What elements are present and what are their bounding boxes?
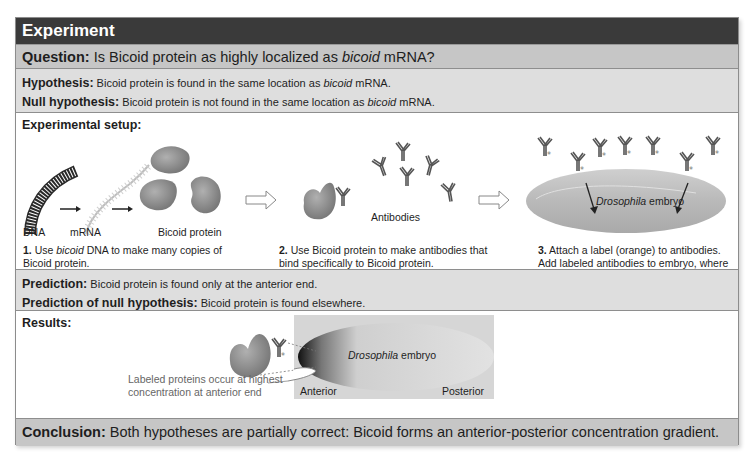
- results-annotation: Labeled proteins occur at highest concen…: [128, 373, 298, 399]
- hollow-arrow-icon: [479, 191, 509, 209]
- null-hypothesis-line: Null hypothesis: Bicoid protein is not f…: [22, 93, 738, 112]
- null-hypothesis-text-end: mRNA.: [396, 96, 435, 108]
- experimental-setup-section: Experimental setup:: [16, 113, 738, 270]
- question-band: Question: Is Bicoid protein as highly lo…: [16, 44, 738, 69]
- results-embryo-rest: embryo: [398, 349, 436, 361]
- prediction-label: Prediction:: [22, 277, 87, 291]
- posterior-label: Posterior: [442, 385, 484, 398]
- prediction-text: Bicoid protein is found only at the ante…: [87, 278, 317, 290]
- header-title: Experiment: [22, 21, 115, 40]
- embryo-label-rest: embryo: [646, 195, 684, 207]
- results-section: Results: Labeled proteins occur at highe…: [16, 311, 738, 419]
- dna-label: DNA: [23, 226, 45, 239]
- hypothesis-band: Hypothesis: Bicoid protein is found in t…: [16, 69, 738, 113]
- null-prediction-label: Prediction of null hypothesis:: [22, 296, 198, 310]
- arrow-right-icon: [60, 206, 81, 212]
- mrna-label: mRNA: [70, 226, 101, 239]
- null-hypothesis-italic: bicoid: [368, 96, 397, 108]
- step-2-number: 2.: [279, 244, 288, 256]
- hypothesis-label: Hypothesis:: [22, 76, 94, 90]
- bicoid-protein-icon: [230, 334, 271, 377]
- step-3-number: 3.: [538, 244, 547, 256]
- question-text-end: mRNA?: [380, 49, 435, 65]
- conclusion-text: Both hypotheses are partially correct: B…: [106, 424, 719, 440]
- step-1-number: 1.: [23, 244, 32, 256]
- embryo-label-italic: Drosophila: [596, 195, 646, 207]
- experiment-panel: Experiment Question: Is Bicoid protein a…: [15, 17, 739, 445]
- question-label: Question:: [22, 49, 90, 65]
- hypothesis-italic: bicoid: [323, 77, 352, 89]
- conclusion-label: Conclusion:: [22, 424, 106, 440]
- question-text: Is Bicoid protein as highly localized as: [90, 49, 342, 65]
- question-italic: bicoid: [342, 49, 380, 65]
- results-illustration: [16, 311, 740, 419]
- mrna-strand-icon: [86, 165, 149, 234]
- embryo-label: Drosophila embryo: [596, 195, 684, 208]
- results-embryo-label: Drosophila embryo: [348, 349, 436, 362]
- hypothesis-text: Bicoid protein is found in the same loca…: [94, 77, 324, 89]
- step-1-caption: 1. Use bicoid DNA to make many copies of…: [23, 244, 253, 270]
- hollow-arrow-icon: [246, 191, 276, 209]
- prediction-line: Prediction: Bicoid protein is found only…: [22, 275, 738, 294]
- bicoid-protein-label: Bicoid protein: [158, 226, 222, 239]
- step-2-text: Use Bicoid protein to make antibodies th…: [279, 244, 487, 269]
- arrow-right-icon: [112, 206, 133, 212]
- anterior-label: Anterior: [300, 385, 337, 398]
- null-hypothesis-text: Bicoid protein is not found in the same …: [119, 96, 367, 108]
- bicoid-protein-icon: [304, 183, 336, 220]
- hypothesis-text-end: mRNA.: [352, 77, 391, 89]
- null-prediction-text: Bicoid protein is found elsewhere.: [198, 297, 366, 309]
- results-embryo-italic: Drosophila: [348, 349, 398, 361]
- antibody-icon: [336, 142, 458, 206]
- labeled-antibody-icon: [272, 338, 286, 361]
- hypothesis-line: Hypothesis: Bicoid protein is found in t…: [22, 74, 738, 93]
- null-hypothesis-label: Null hypothesis:: [22, 95, 119, 109]
- antibodies-label: Antibodies: [371, 211, 420, 224]
- conclusion-band: Conclusion: Both hypotheses are partiall…: [16, 419, 738, 446]
- step-2-caption: 2. Use Bicoid protein to make antibodies…: [279, 244, 499, 270]
- prediction-band: Prediction: Bicoid protein is found only…: [16, 270, 738, 311]
- step-1-italic: bicoid: [56, 244, 83, 256]
- step-1-text: Use: [32, 244, 57, 256]
- header-bar: Experiment: [16, 18, 738, 44]
- bicoid-protein-icon: [140, 146, 221, 213]
